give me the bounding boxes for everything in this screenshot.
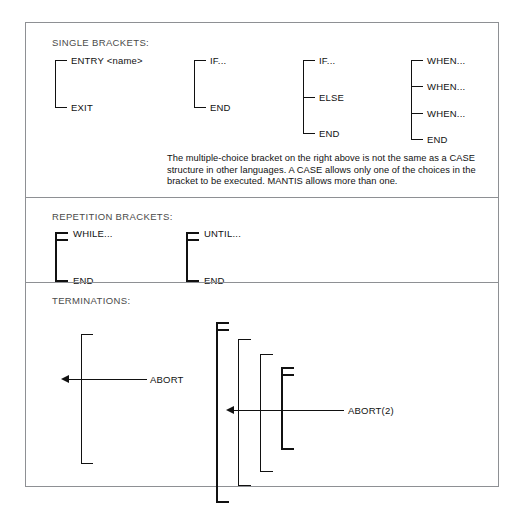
- bracket-tick-loop-upper: [281, 367, 294, 369]
- abort-arrow-line: [69, 379, 147, 380]
- bracket-label: END: [427, 134, 448, 145]
- figure-frame: SINGLE BRACKETS: ENTRY <name> EXIT IF...…: [25, 22, 499, 487]
- bracket-label: WHILE...: [73, 228, 113, 239]
- bracket-spine: [281, 368, 283, 448]
- section-divider: [26, 197, 498, 198]
- bracket-label: IF...: [319, 55, 335, 66]
- bracket-spine: [411, 60, 412, 139]
- bracket-label: EXIT: [71, 102, 93, 113]
- bracket-tick-loop-lower: [216, 329, 229, 331]
- bracket-tick: [411, 139, 423, 140]
- bracket-label: UNTIL...: [204, 228, 241, 239]
- bracket-label: ELSE: [319, 92, 344, 103]
- bracket-label: IF...: [210, 55, 226, 66]
- section-title-terminations: TERMINATIONS:: [52, 295, 130, 306]
- bracket-tick: [281, 448, 294, 450]
- abort-arrow-head: [61, 375, 69, 383]
- bracket-tick: [260, 471, 273, 472]
- bracket-label: END: [73, 275, 94, 286]
- bracket-label: WHEN...: [427, 55, 465, 66]
- bracket-label: END: [319, 128, 340, 139]
- bracket-spine: [238, 339, 239, 485]
- abort2-arrow-line: [234, 410, 344, 411]
- bracket-tick: [303, 133, 315, 134]
- bracket-tick: [55, 60, 67, 61]
- abort-label: ABORT: [150, 374, 184, 385]
- section-title-repetition-brackets: REPETITION BRACKETS:: [52, 211, 173, 222]
- bracket-tick: [194, 107, 206, 108]
- bracket-tick-loop-upper: [55, 232, 68, 234]
- bracket-tick-loop-upper: [186, 232, 199, 234]
- section-divider: [26, 282, 498, 283]
- abort2-arrow-head: [226, 406, 234, 414]
- bracket-tick: [55, 107, 67, 108]
- bracket-tick-loop-lower: [186, 239, 199, 241]
- bracket-label: ENTRY <name>: [71, 55, 143, 66]
- bracket-tick-loop-lower: [281, 374, 294, 376]
- bracket-tick: [216, 501, 229, 503]
- bracket-tick: [303, 97, 315, 98]
- bracket-tick: [260, 354, 273, 355]
- bracket-tick: [303, 60, 315, 61]
- bracket-spine: [260, 354, 261, 471]
- bracket-tick: [411, 60, 423, 61]
- bracket-tick: [194, 60, 206, 61]
- bracket-tick: [81, 334, 93, 335]
- abort2-label: ABORT(2): [348, 405, 394, 416]
- bracket-spine: [81, 334, 82, 463]
- bracket-label: END: [204, 275, 225, 286]
- bracket-spine: [216, 323, 218, 501]
- bracket-tick: [238, 485, 251, 486]
- bracket-tick-loop-upper: [216, 322, 229, 324]
- bracket-label: WHEN...: [427, 108, 465, 119]
- bracket-tick: [81, 463, 93, 464]
- multiple-choice-note: The multiple-choice bracket on the right…: [167, 153, 497, 188]
- bracket-spine: [194, 60, 195, 107]
- section-title-single-brackets: SINGLE BRACKETS:: [52, 37, 149, 48]
- bracket-tick: [411, 113, 423, 114]
- bracket-tick: [238, 339, 251, 340]
- bracket-spine: [55, 60, 56, 107]
- bracket-label: WHEN...: [427, 81, 465, 92]
- bracket-tick-loop-lower: [55, 239, 68, 241]
- bracket-label: END: [210, 102, 231, 113]
- bracket-tick: [411, 86, 423, 87]
